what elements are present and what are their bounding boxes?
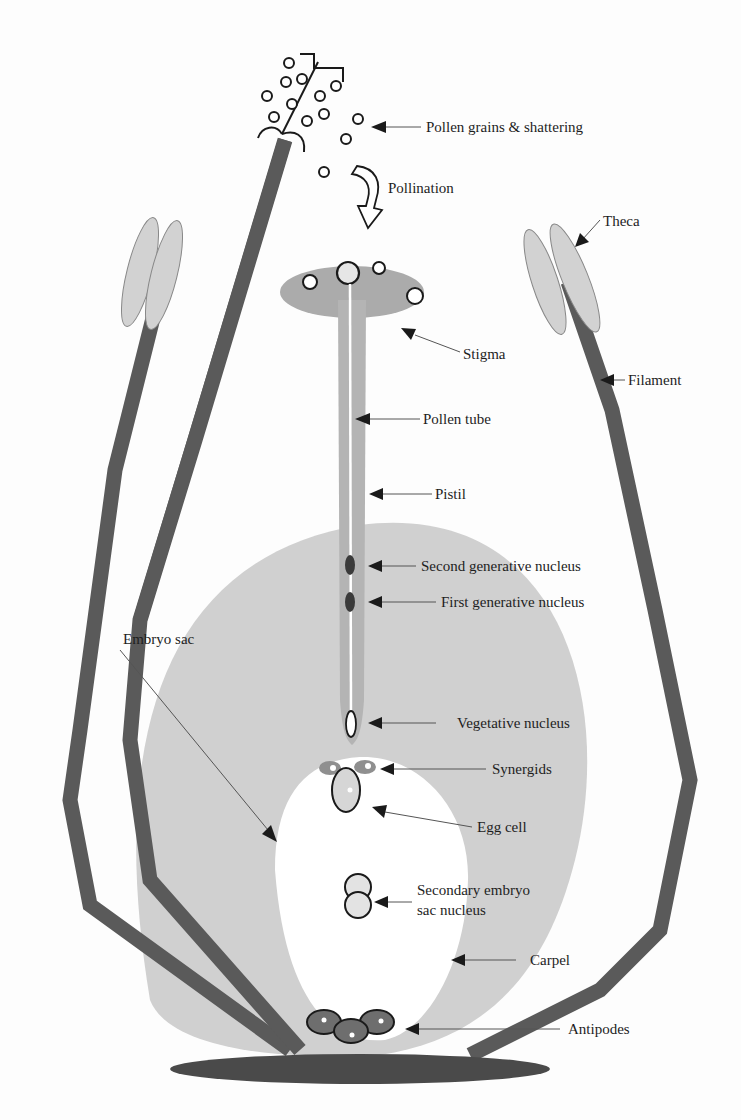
triangle-arrowhead-icon [369,488,383,500]
label-first-generative: First generative nucleus [441,594,584,610]
second-generative-nucleus [345,555,355,575]
triangle-arrowhead-icon [371,121,386,133]
label-embryo-sac: Embryo sac [123,631,195,647]
label-pollen-grains: Pollen grains & shattering [426,119,584,135]
label-secondary-nucleus-line2: sac nucleus [417,902,486,918]
pollen-tube [350,284,351,720]
left-theca [114,215,190,333]
shattered-anther [258,54,343,152]
label-pollen-tube: Pollen tube [423,411,491,427]
curved-down-arrow-icon [352,166,382,228]
label-antipodes: Antipodes [568,1021,630,1037]
label-stigma: Stigma [463,346,506,362]
triangle-arrowhead-icon [401,328,416,340]
egg-cell [332,768,360,812]
receptacle [170,1054,550,1084]
label-second-generative: Second generative nucleus [421,558,581,574]
label-pistil: Pistil [435,486,466,502]
label-vegetative-nucleus: Vegetative nucleus [457,715,570,731]
label-egg-cell: Egg cell [477,819,527,835]
label-filament: Filament [628,372,682,388]
label-theca: Theca [603,213,640,229]
label-carpel: Carpel [530,952,570,968]
flower-diagram: Pollen grains & shattering Pollination T… [0,0,741,1120]
label-pollination: Pollination [388,180,454,196]
vegetative-nucleus [346,711,356,737]
right-theca [516,219,609,338]
label-synergids: Synergids [492,761,552,777]
secondary-embryo-sac-nucleus [345,874,371,918]
label-secondary-nucleus-line1: Secondary embryo [417,882,530,898]
first-generative-nucleus [345,592,355,612]
